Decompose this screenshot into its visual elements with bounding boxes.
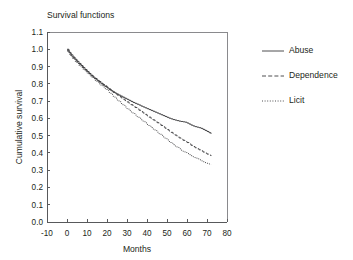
series-line-licit: [67, 51, 211, 164]
x-tick-label: -10: [41, 229, 53, 238]
survival-functions-figure: Survival functions 0.00.10.20.30.40.50.6…: [0, 0, 353, 260]
legend-item-dependence[interactable]: Dependence: [262, 70, 338, 80]
y-tick-label: 0.3: [32, 166, 44, 175]
x-tick-label: 50: [162, 229, 172, 238]
chart-legend: AbuseDependenceLicit: [262, 45, 338, 105]
series-line-abuse: [67, 49, 211, 134]
legend-item-abuse[interactable]: Abuse: [262, 45, 314, 55]
y-tick-label: 1.1: [32, 28, 44, 37]
legend-label: Abuse: [289, 45, 314, 55]
series-lines: [67, 49, 211, 164]
y-tick-label: 1.0: [32, 45, 44, 54]
y-tick-label: 0.7: [32, 97, 44, 106]
x-tick-label: 70: [202, 229, 212, 238]
y-tick-label: 0.2: [32, 183, 44, 192]
legend-item-licit[interactable]: Licit: [262, 95, 305, 105]
legend-label: Licit: [289, 95, 305, 105]
x-tick-label: 10: [82, 229, 92, 238]
x-tick-label: 30: [122, 229, 132, 238]
plot-frame: [47, 32, 227, 222]
chart-title: Survival functions: [47, 10, 114, 20]
y-tick-label: 0.6: [32, 114, 44, 123]
x-tick-label: 40: [142, 229, 152, 238]
legend-label: Dependence: [289, 70, 338, 80]
x-tick-label: 0: [65, 229, 70, 238]
y-tick-label: 0.0: [32, 218, 44, 227]
chart-title-group: Survival functions: [47, 10, 114, 20]
x-axis-title: Months: [123, 244, 151, 254]
series-line-dependence: [67, 50, 211, 156]
chart-canvas: Survival functions 0.00.10.20.30.40.50.6…: [0, 0, 353, 260]
y-tick-label: 0.9: [32, 63, 44, 72]
y-tick-label: 0.4: [32, 149, 44, 158]
y-tick-label: 0.5: [32, 132, 44, 141]
x-tick-label: 80: [222, 229, 232, 238]
y-tick-label: 0.1: [32, 201, 44, 210]
x-tick-label: 60: [182, 229, 192, 238]
y-tick-label: 0.8: [32, 80, 44, 89]
x-tick-label: 20: [102, 229, 112, 238]
y-axis-title: Cumulative survival: [14, 90, 24, 165]
